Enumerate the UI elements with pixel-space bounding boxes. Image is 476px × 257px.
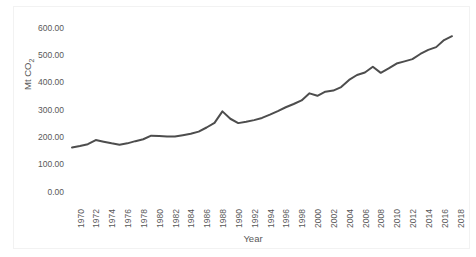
x-axis-tick-label: 1990 — [234, 209, 244, 228]
x-axis-tick-label: 2006 — [361, 209, 371, 228]
y-axis-tick-label: 400.00 — [20, 77, 64, 87]
x-axis-tick-label: 2014 — [424, 209, 434, 228]
x-axis-tick-label: 2010 — [392, 209, 402, 228]
y-axis-tick-label: 600.00 — [20, 23, 64, 33]
x-axis-tick-label: 1984 — [186, 209, 196, 228]
x-axis-tick-label: 2002 — [329, 209, 339, 228]
x-axis-tick-label: 2000 — [313, 209, 323, 228]
data-series-line — [72, 36, 452, 147]
x-axis-tick-label: 1974 — [107, 209, 117, 228]
plot-area — [72, 36, 452, 147]
y-axis-tick-label: 100.00 — [20, 159, 64, 169]
x-axis-tick-label: 1998 — [297, 209, 307, 228]
x-axis-tick-label: 1982 — [171, 209, 181, 228]
x-axis-tick-label: 1978 — [139, 209, 149, 228]
x-axis-tick-label: 1976 — [123, 209, 133, 228]
x-axis-tick-label: 2004 — [345, 209, 355, 228]
chart-container: Mt CO2 600.00500.00400.00300.00200.00100… — [0, 0, 476, 257]
x-axis-tick-label: 1992 — [250, 209, 260, 228]
y-axis-tick-label: 500.00 — [20, 50, 64, 60]
x-axis-tick-label: 1994 — [266, 209, 276, 228]
x-axis-tick-label: 1972 — [91, 209, 101, 228]
x-axis-tick-label: 1980 — [155, 209, 165, 228]
x-axis-tick-label: 2008 — [376, 209, 386, 228]
x-axis-tick-label: 1986 — [202, 209, 212, 228]
x-axis-title-text: Year — [213, 233, 262, 244]
x-axis-tick-label: 2012 — [408, 209, 418, 228]
x-axis-tick-label: 1996 — [281, 209, 291, 228]
x-axis-tick-label: 1988 — [218, 209, 228, 228]
x-axis-title: Year — [0, 233, 476, 244]
y-axis-tick-label: 200.00 — [20, 132, 64, 142]
x-axis-tick-label: 2016 — [440, 209, 450, 228]
y-axis-tick-label: 300.00 — [20, 105, 64, 115]
x-axis-tick-label: 1970 — [76, 209, 86, 228]
y-axis-tick-label: 0.00 — [20, 187, 64, 197]
x-axis-tick-label: 2018 — [456, 209, 466, 228]
